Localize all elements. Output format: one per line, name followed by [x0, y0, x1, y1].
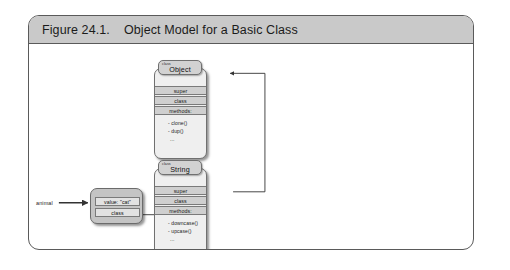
- class-row-methods-string: methods:: [155, 206, 206, 215]
- class-kind-label-object: class: [162, 62, 171, 66]
- class-name-object: Object: [169, 65, 191, 74]
- instance-row-value: value: "cat": [95, 197, 140, 206]
- figure-number: Figure 24.1.: [42, 23, 110, 37]
- class-row-class-string: class: [155, 196, 206, 205]
- method-item-object-2: ...: [170, 136, 174, 142]
- instance-object-box[interactable]: value: "cat" class: [90, 188, 143, 224]
- method-item-string-1: - upcase(): [168, 228, 192, 234]
- class-row-methods-object: methods:: [155, 106, 206, 115]
- figure-caption: Figure 24.1. Object Model for a Basic Cl…: [29, 16, 473, 44]
- method-item-object-1: - dup(): [168, 128, 183, 134]
- method-item-string-0: - downcase(): [168, 220, 198, 226]
- figure-title: Object Model for a Basic Class: [124, 23, 298, 37]
- class-name-string: String: [170, 165, 190, 174]
- class-tab-string[interactable]: class String: [158, 160, 202, 175]
- instance-row-class: class: [95, 208, 140, 217]
- diagram-canvas: animal value: "cat" class class Object s…: [29, 44, 473, 250]
- figure-frame: Figure 24.1. Object Model for a Basic Cl…: [28, 15, 474, 250]
- class-box-string[interactable]: super class methods: - downcase() - upca…: [154, 168, 207, 250]
- connector-string-to-object: [230, 73, 265, 191]
- class-row-super-object: super: [155, 86, 206, 95]
- variable-label-animal: animal: [36, 200, 53, 206]
- class-box-object[interactable]: super class methods: - clone() - dup() .…: [154, 68, 207, 159]
- class-row-super-string: super: [155, 186, 206, 195]
- method-item-string-2: ...: [170, 236, 174, 242]
- class-tab-object[interactable]: class Object: [158, 60, 202, 75]
- class-row-class-object: class: [155, 96, 206, 105]
- method-item-object-0: - clone(): [168, 120, 187, 126]
- class-kind-label-string: class: [162, 162, 171, 166]
